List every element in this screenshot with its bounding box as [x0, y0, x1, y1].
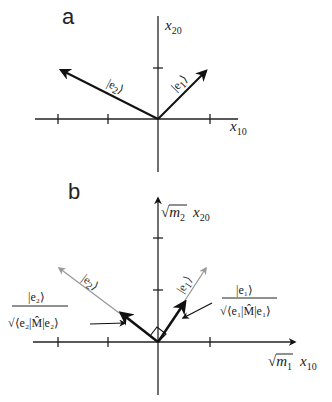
panel-b-vector-e1-normalized — [158, 302, 185, 342]
normalized-e1-numerator: |e₁⟩ — [236, 283, 253, 297]
figure-canvas: a x20 x10 |e2⟩ |e1⟩ b √m2x20 √m1x — [0, 0, 332, 402]
normalized-e2-denominator: √⟨e₂|M̂|e₂⟩ — [8, 316, 59, 330]
normalized-e1-formula: |e₁⟩ √⟨e₁|M̂|e₁⟩ — [220, 283, 277, 318]
panel-a-ket-e1-label: |e1⟩ — [168, 72, 192, 96]
normalized-e2-pointer-arrow — [90, 323, 125, 324]
panel-a-y-axis-label: x20 — [164, 17, 182, 36]
panel-a: a x20 x10 |e2⟩ |e1⟩ — [35, 4, 247, 172]
panel-b-x-axis-label: √m1x10 — [268, 353, 317, 372]
panel-b-label: b — [68, 179, 80, 204]
panel-b-vector-e2-normalized — [121, 313, 158, 342]
normalized-e2-formula: |e₂⟩ √⟨e₂|M̂|e₂⟩ — [8, 290, 68, 330]
panel-b: b √m2x20 √m1x10 |e2⟩ |e1⟩ |e₂⟩ √⟨e₂| — [8, 179, 317, 395]
normalized-e1-denominator: √⟨e₁|M̂|e₁⟩ — [220, 304, 271, 318]
panel-b-y-axis-label: √m2x20 — [161, 204, 210, 223]
panel-a-label: a — [62, 4, 75, 29]
panel-a-ket-e2-label: |e2⟩ — [104, 76, 127, 98]
normalized-e1-pointer-arrow — [183, 303, 212, 318]
panel-a-x-axis-label: x10 — [229, 118, 247, 137]
normalized-e2-numerator: |e₂⟩ — [28, 290, 45, 304]
panel-b-ket-e1-label: |e1⟩ — [174, 273, 197, 297]
